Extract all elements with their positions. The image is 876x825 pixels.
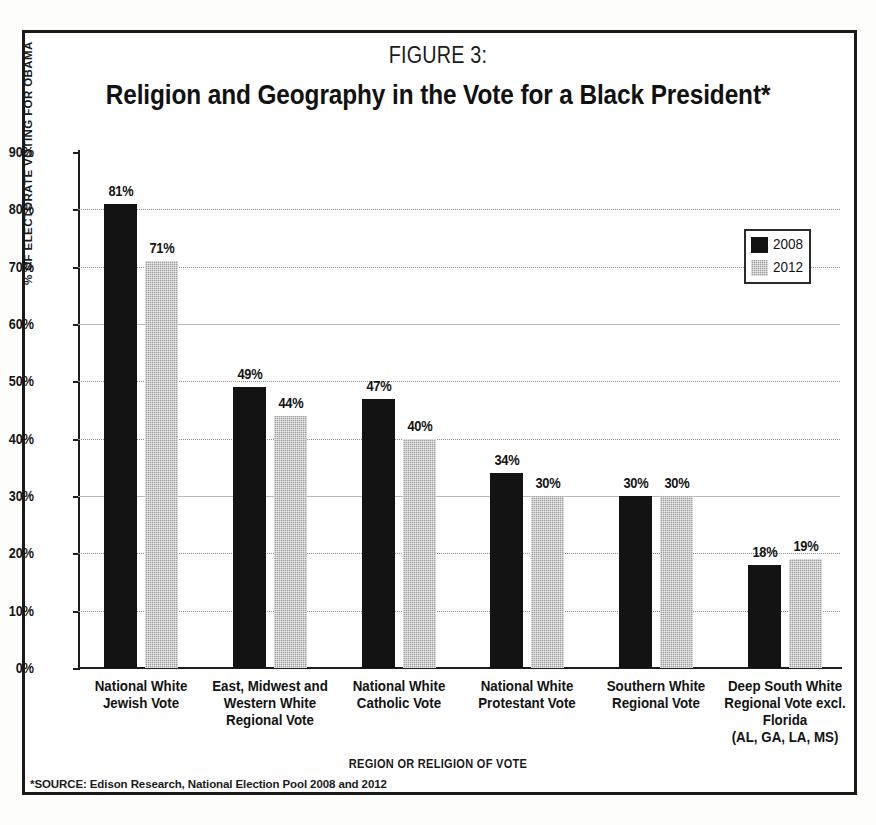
bar-value-label: 30% — [650, 475, 705, 491]
y-axis-tick-label: 80% — [0, 201, 34, 217]
legend-label: 2008 — [773, 235, 803, 252]
bar-2012: 30% — [660, 496, 693, 668]
category-label-line: Catholic Vote — [325, 695, 472, 712]
gridline — [78, 324, 840, 325]
x-axis-category-label: National WhiteProtestant Vote — [454, 678, 601, 712]
bar-value-label: 44% — [263, 395, 318, 411]
bar-2008: 47% — [362, 399, 395, 668]
y-axis-tick-mark — [73, 668, 78, 670]
y-axis-tick-mark — [73, 439, 78, 441]
category-label-line: East, Midwest and — [196, 678, 343, 695]
y-axis-tick-label: 50% — [0, 373, 34, 389]
legend-swatch-icon — [751, 237, 768, 253]
category-label-line: Western White — [196, 695, 343, 712]
bar-2012: 71% — [145, 261, 178, 668]
y-axis-tick-label: 0% — [0, 660, 34, 676]
bar-value-label: 49% — [222, 366, 277, 382]
category-label-line: Jewish Vote — [67, 695, 214, 712]
gridline — [78, 209, 840, 210]
category-label-line: National White — [454, 678, 601, 695]
bar-value-label: 47% — [351, 378, 406, 394]
category-label-line: Florida — [711, 712, 858, 729]
bar-2008: 18% — [748, 565, 781, 668]
x-axis-category-label: National WhiteCatholic Vote — [325, 678, 472, 712]
x-axis-category-label: Southern WhiteRegional Vote — [583, 678, 730, 712]
bar-value-label: 71% — [134, 240, 189, 256]
bar-2012: 44% — [274, 416, 307, 668]
page-title: Religion and Geography in the Vote for a… — [57, 79, 819, 111]
bar-value-label: 30% — [521, 475, 576, 491]
y-axis-tick-mark — [73, 381, 78, 383]
source-note: *SOURCE: Edison Research, National Elect… — [30, 778, 387, 790]
y-axis-tick-mark — [73, 553, 78, 555]
y-axis-title: % OF ELECTORATE VOTING FOR OBAMA — [22, 0, 34, 285]
category-label-line: Regional Vote — [196, 712, 343, 729]
category-label-line: Protestant Vote — [454, 695, 601, 712]
figure-container: FIGURE 3: Religion and Geography in the … — [0, 0, 876, 825]
gridline — [78, 553, 840, 554]
y-axis-tick-mark — [73, 611, 78, 613]
x-axis-category-label: East, Midwest andWestern WhiteRegional V… — [196, 678, 343, 729]
y-axis-tick-mark — [73, 152, 78, 154]
bar-2008: 49% — [233, 387, 266, 668]
legend-label: 2012 — [773, 258, 803, 275]
category-label-line: Regional Vote excl. — [711, 695, 858, 712]
y-axis-tick-mark — [73, 324, 78, 326]
y-axis-tick-label: 20% — [0, 545, 34, 561]
category-label-line: Regional Vote — [583, 695, 730, 712]
category-label-line: National White — [67, 678, 214, 695]
y-axis-tick-label: 10% — [0, 603, 34, 619]
category-label-line: Southern White — [583, 678, 730, 695]
bar-2008: 30% — [619, 496, 652, 668]
plot-area: 0%10%20%30%40%50%60%70%80%90% 81%71%49%4… — [78, 152, 840, 668]
bar-2012: 30% — [531, 496, 564, 668]
bar-value-label: 81% — [93, 183, 148, 199]
bar-2012: 19% — [789, 559, 822, 668]
bar-2008: 34% — [490, 473, 523, 668]
bar-value-label: 34% — [480, 452, 535, 468]
y-axis-tick-mark — [73, 267, 78, 269]
category-label-line: (AL, GA, LA, MS) — [711, 729, 858, 746]
x-axis-title: REGION OR RELIGION OF VOTE — [35, 757, 841, 771]
y-axis-tick-label: 60% — [0, 316, 34, 332]
figure-number-label: FIGURE 3: — [61, 42, 814, 69]
category-label-line: National White — [325, 678, 472, 695]
y-axis-tick-label: 40% — [0, 431, 34, 447]
y-axis-tick-label: 30% — [0, 488, 34, 504]
x-axis-category-label: Deep South WhiteRegional Vote excl.Flori… — [711, 678, 858, 746]
bar-2008: 81% — [104, 204, 137, 668]
gridline — [78, 496, 840, 497]
category-label-line: Deep South White — [711, 678, 858, 695]
y-axis-tick-label: 90% — [0, 144, 34, 160]
gridline — [78, 611, 840, 612]
bar-2012: 40% — [403, 439, 436, 668]
gridline — [78, 381, 840, 382]
bar-value-label: 40% — [392, 418, 447, 434]
legend-swatch-icon — [751, 260, 768, 276]
y-axis-tick-mark — [73, 496, 78, 498]
x-axis-category-label: National WhiteJewish Vote — [67, 678, 214, 712]
gridline — [78, 439, 840, 440]
y-axis-tick-label: 70% — [0, 259, 34, 275]
gridline — [78, 267, 840, 268]
y-axis-tick-mark — [73, 209, 78, 211]
bar-value-label: 19% — [778, 538, 833, 554]
chart-legend: 20082012 — [744, 229, 811, 284]
